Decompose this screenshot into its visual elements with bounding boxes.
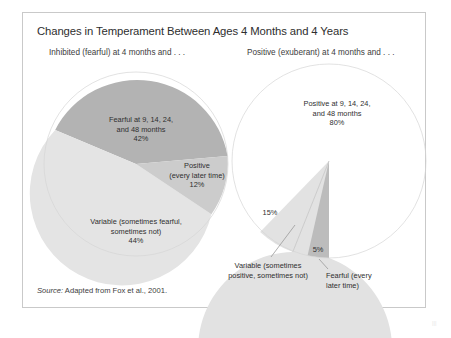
- slice-pct-variable-right: 15%: [253, 208, 287, 217]
- panel-heading-right: Positive (exuberant) at 4 months and . .…: [247, 48, 394, 57]
- slice-pct-fearful-right: 5%: [305, 245, 331, 254]
- pie-chart-right: Positive at 9, 14, 24,and 48 months80% 1…: [229, 61, 434, 266]
- figure-frame: Changes in Temperament Between Ages 4 Mo…: [22, 12, 426, 308]
- corner-mark: |||: [432, 320, 437, 326]
- panel-heading-left: Inhibited (fearful) at 4 months and . . …: [49, 48, 185, 57]
- slice-label-positive-left: Positive(every later time)12%: [159, 161, 235, 190]
- source-label: Source:: [37, 286, 63, 295]
- slice-label-fearful-left: Fearful at 9, 14, 24,and 48 months42%: [81, 115, 201, 144]
- callout-variable-right: Variable (sometimespositive, sometimes n…: [213, 261, 323, 280]
- callout-fearful-right: Fearful (everylater time): [326, 271, 396, 290]
- slice-label-positive-right: Positive at 9, 14, 24,and 48 months80%: [277, 99, 397, 128]
- pie-chart-left: Fearful at 9, 14, 24,and 48 months42% Po…: [41, 69, 231, 259]
- pie-right-svg: [229, 61, 434, 266]
- source-text: Adapted from Fox et al., 2001.: [63, 286, 167, 295]
- slice-label-variable-left: Variable (sometimes fearful,sometimes no…: [61, 217, 211, 246]
- source-note: Source: Adapted from Fox et al., 2001.: [37, 286, 167, 295]
- figure-title: Changes in Temperament Between Ages 4 Mo…: [37, 25, 348, 37]
